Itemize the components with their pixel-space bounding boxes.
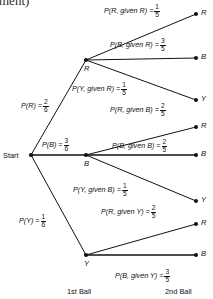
fraction-Y-given-R: 15 — [121, 82, 127, 96]
branch-probability-P-Y: P(Y) =16 — [19, 214, 46, 228]
branch-probability-P-Y-text: P(Y) = — [19, 216, 40, 225]
conditional-probability-Y-given-B: P(Y, given B) =15 — [73, 183, 128, 197]
conditional-probability-B-given-R: P(B, given R) =35 — [110, 38, 166, 52]
second-ball-node-label-B3: B — [201, 249, 206, 258]
fraction-R-given-R: 15 — [154, 4, 160, 18]
node-dot-second-R3 — [194, 222, 198, 226]
first-ball-node-label-B: B — [84, 159, 89, 168]
probability-tree-diagram: ment) — [0, 0, 213, 299]
second-ball-node-label-B1: B — [201, 52, 206, 61]
node-dot-second-Y2 — [194, 199, 198, 203]
branch-probability-P-R-text: P(R) = — [21, 101, 42, 110]
branch-probability-P-R: P(R) =26 — [21, 99, 49, 113]
edge-start-to-Y — [31, 155, 86, 255]
node-dot-start — [29, 153, 33, 157]
fraction-R-given-B: 25 — [160, 103, 166, 117]
fraction-R-given-Y: 25 — [151, 205, 157, 219]
conditional-probability-R-given-R: P(R, given R) =15 — [104, 4, 160, 18]
fraction-B-given-B: 25 — [162, 139, 168, 153]
fraction-B-given-Y: 35 — [164, 269, 170, 283]
stage-caption-first-ball: 1st Ball — [67, 287, 91, 296]
node-dot-second-R1 — [194, 12, 198, 16]
tree-edges — [0, 0, 213, 299]
node-dot-first-Y — [84, 253, 88, 257]
edge-R-to-B — [86, 58, 196, 60]
second-ball-node-label-R3: R — [201, 218, 206, 227]
second-ball-node-label-Y1: Y — [201, 94, 206, 103]
node-dot-second-B3 — [194, 253, 198, 257]
fraction-P-Y: 16 — [41, 214, 47, 228]
node-dot-second-Y1 — [194, 98, 198, 102]
node-dot-first-B — [84, 153, 88, 157]
branch-probability-P-B: P(B) =36 — [42, 138, 69, 152]
start-node-label: Start — [3, 151, 19, 160]
node-dot-second-B2 — [194, 153, 198, 157]
conditional-probability-R-given-B: P(R, given B) =25 — [110, 103, 166, 117]
conditional-probability-B-given-Y: P(B, given Y) =35 — [115, 269, 170, 283]
fraction-B-given-R: 35 — [160, 38, 166, 52]
second-ball-node-label-R1: R — [201, 8, 206, 17]
branch-probability-P-B-text: P(B) = — [42, 140, 63, 149]
edge-Y-to-R — [86, 224, 196, 255]
conditional-probability-Y-given-R: P(Y, given R) =15 — [72, 82, 127, 96]
node-dot-first-R — [84, 58, 88, 62]
edge-R-to-R — [86, 14, 196, 60]
conditional-probability-B-given-B: P(B, given B) =25 — [112, 139, 167, 153]
first-ball-node-label-R: R — [84, 64, 89, 73]
node-dot-second-R2 — [194, 125, 198, 129]
first-ball-node-label-Y: Y — [84, 259, 89, 268]
stage-caption-second-ball: 2nd Ball — [165, 287, 192, 296]
fraction-P-B: 36 — [64, 138, 70, 152]
fraction-P-R: 26 — [43, 99, 49, 113]
fraction-Y-given-B: 15 — [122, 183, 128, 197]
conditional-probability-R-given-Y: P(R, given Y) =25 — [101, 205, 156, 219]
second-ball-node-label-R2: R — [201, 121, 206, 130]
node-dot-second-B1 — [194, 56, 198, 60]
second-ball-node-label-Y2: Y — [201, 195, 206, 204]
second-ball-node-label-B2: B — [201, 149, 206, 158]
